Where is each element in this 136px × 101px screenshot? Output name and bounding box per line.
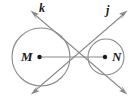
geometry-figure: M N k j [0, 0, 136, 101]
line-j-arrowhead-end [119, 11, 128, 20]
line-k-arrowhead-end [119, 86, 128, 95]
label-point-M: M [21, 50, 33, 63]
line-k-arrowhead-start [31, 11, 40, 20]
center-dot-N [103, 55, 107, 59]
label-line-j: j [106, 4, 109, 16]
label-line-k: k [39, 2, 45, 14]
label-point-N: N [112, 50, 121, 63]
center-dot-M [37, 55, 41, 59]
line-j-arrowhead-start [31, 86, 40, 95]
